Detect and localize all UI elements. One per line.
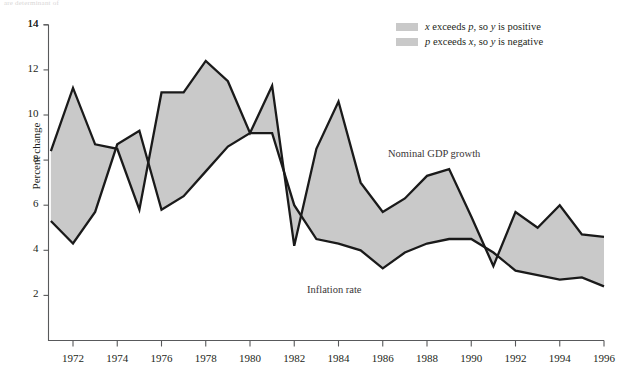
y-tick-label-10: 10 [15,107,39,119]
y-tick-label-14: 14 [15,17,39,29]
y-tick-label-4: 4 [15,242,39,254]
x-tick-label-1976: 1976 [142,352,182,364]
x-tick-label-1972: 1972 [53,352,93,364]
x-tick-label-1990: 1990 [451,352,491,364]
x-tick-label-1996: 1996 [584,352,623,364]
annotation-inflation-rate: Inflation rate [307,284,362,295]
x-tick-label-1994: 1994 [540,352,580,364]
x-tick-label-1982: 1982 [274,352,314,364]
annotation-nominal-gdp-growth: Nominal GDP growth [388,148,480,159]
y-tick-label-8: 8 [15,152,39,164]
y-tick-label-12: 12 [15,62,39,74]
area-between-series [51,61,604,287]
plot-area [0,0,623,387]
axes-and-series [44,25,605,347]
x-tick-label-1980: 1980 [230,352,270,364]
chart-page: are determinant of x exceeds p, so y is … [0,0,623,387]
x-tick-label-1978: 1978 [186,352,226,364]
x-tick-label-1992: 1992 [496,352,536,364]
y-tick-label-6: 6 [15,197,39,209]
x-tick-label-1988: 1988 [407,352,447,364]
x-tick-label-1986: 1986 [363,352,403,364]
x-tick-label-1984: 1984 [319,352,359,364]
x-tick-label-1974: 1974 [97,352,137,364]
y-tick-label-2: 2 [15,287,39,299]
